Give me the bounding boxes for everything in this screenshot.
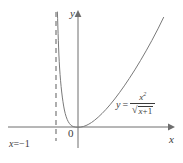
- curve-equation-label: y = x2 √ x+1: [116, 93, 155, 116]
- asymptote-value: −1: [19, 138, 30, 149]
- equation-equals-sign: =: [122, 100, 128, 110]
- equation-fraction: x2 √ x+1: [130, 93, 155, 116]
- y-axis-arrowhead: [75, 10, 82, 17]
- equation-lhs: y: [116, 100, 120, 110]
- asymptote-label: x=−1: [9, 139, 30, 149]
- math-plot-figure: y x 0 x=−1 y = x2 √ x+1: [0, 0, 183, 163]
- x-axis-label: x: [169, 134, 174, 145]
- y-axis-label: y: [70, 8, 75, 19]
- equation-denominator: √ x+1: [130, 104, 155, 116]
- radicand-number: 1: [148, 106, 153, 116]
- x-axis-arrowhead: [168, 124, 175, 131]
- radicand: x+1: [138, 106, 154, 116]
- origin-label: 0: [68, 128, 74, 139]
- equation-numerator-exponent: 2: [143, 91, 146, 97]
- square-root-icon: √ x+1: [132, 105, 153, 116]
- equation-numerator: x2: [136, 93, 149, 103]
